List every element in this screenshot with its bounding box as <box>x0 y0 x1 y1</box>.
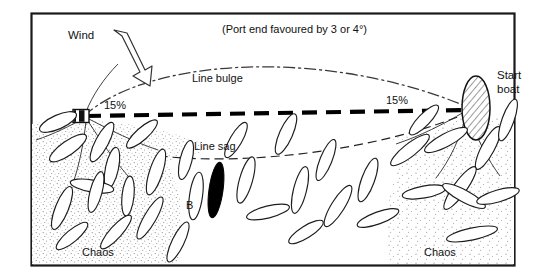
port-end-note: (Port end favoured by 3 or 4°) <box>222 23 367 35</box>
diagram-stage: Wind (Port end favoured by 3 or 4°) Line… <box>0 0 543 280</box>
boat-b-label: B <box>186 199 193 211</box>
wind-label: Wind <box>68 29 94 41</box>
chaos-right-label: Chaos <box>424 246 456 258</box>
chaos-left-label: Chaos <box>82 246 114 258</box>
line-sag-label: Line sag <box>194 140 236 152</box>
percent-left-label: 15% <box>104 99 126 111</box>
start-boat-label-line2: boat <box>497 83 520 95</box>
line-bulge-label: Line bulge <box>192 72 243 84</box>
sailing-start-line-diagram: Wind (Port end favoured by 3 or 4°) Line… <box>0 0 543 280</box>
start-boat-label-line1: Start <box>497 69 522 81</box>
percent-right-label: 15% <box>386 94 408 106</box>
